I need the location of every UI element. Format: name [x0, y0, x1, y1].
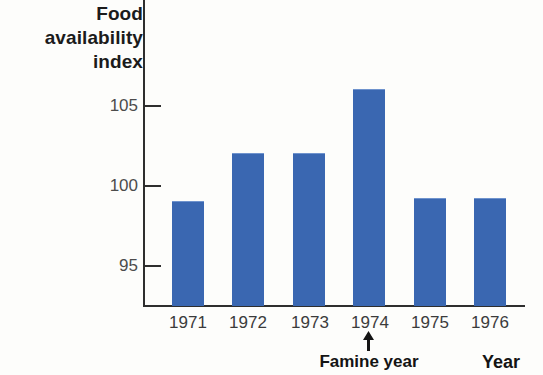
bar-1972 [232, 153, 264, 306]
famine-year-annotation: Famine year [271, 352, 467, 372]
y-tick-label-105: 105 [94, 97, 138, 114]
y-axis-title-line-1: Food [10, 2, 143, 26]
y-axis-title-line-3: index [10, 50, 143, 74]
x-tick-label-1975: 1975 [400, 313, 460, 333]
bar-1971 [172, 201, 204, 306]
x-tick-label-1971: 1971 [158, 313, 218, 333]
bar-1973 [293, 153, 325, 306]
chart-screenshot: Food availability index 105 100 95 1971 … [0, 0, 543, 375]
x-tick-label-1972: 1972 [218, 313, 278, 333]
bar-1974 [353, 89, 385, 306]
x-tick-label-1974: 1974 [340, 313, 400, 333]
up-arrow-icon [361, 331, 376, 351]
y-axis-title-line-2: availability [10, 26, 143, 50]
plot-area [144, 0, 526, 306]
x-tick-label-1973: 1973 [280, 313, 340, 333]
bar-1976 [474, 198, 506, 306]
y-tick-label-95: 95 [94, 257, 138, 274]
y-axis-title: Food availability index [10, 2, 143, 74]
x-axis-title: Year [466, 352, 536, 372]
y-tick-label-100: 100 [94, 177, 138, 194]
x-tick-label-1976: 1976 [460, 313, 520, 333]
bar-1975 [414, 198, 446, 306]
